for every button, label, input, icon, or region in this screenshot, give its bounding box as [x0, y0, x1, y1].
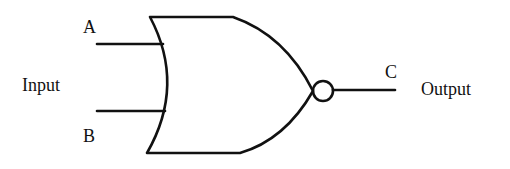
output-group-label: Output — [421, 80, 471, 98]
nor-gate-diagram: A Input B C Output — [0, 0, 510, 169]
inversion-bubble — [313, 81, 333, 101]
input-a-label: A — [83, 18, 96, 36]
input-group-label: Input — [22, 76, 60, 94]
input-b-label: B — [83, 127, 95, 145]
output-c-label: C — [385, 63, 397, 81]
nor-gate-body — [147, 17, 313, 153]
